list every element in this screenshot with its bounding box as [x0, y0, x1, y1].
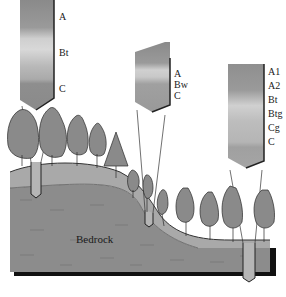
tree-icon — [89, 123, 106, 168]
tree-icon — [8, 110, 39, 167]
soil-profile-midslope — [135, 42, 170, 112]
tree-icon — [200, 192, 219, 240]
horizon-label: C — [59, 84, 66, 94]
horizon-label: C — [268, 137, 275, 147]
tree-icon — [176, 188, 194, 236]
horizon-label: Bw — [174, 80, 188, 90]
tree-icon — [222, 186, 243, 242]
bedrock-label: Bedrock — [76, 233, 113, 245]
tree-icon — [67, 115, 88, 166]
catena-illustration — [0, 0, 286, 297]
tree-icon — [39, 108, 66, 167]
soil-catena-diagram: A Bt C A Bw C A1 A2 Bt Btg Cg C Bedrock — [0, 0, 286, 297]
tree-icon — [254, 190, 275, 242]
soil-profile-downslope — [228, 64, 264, 168]
horizon-label: Cg — [268, 123, 280, 133]
horizon-label: A2 — [268, 81, 280, 91]
horizon-label: A — [59, 12, 66, 22]
horizon-label: C — [174, 91, 181, 101]
horizon-label: Bt — [59, 48, 68, 58]
horizon-label: A1 — [268, 67, 280, 77]
horizon-label: Bt — [268, 95, 277, 105]
soil-profile-upslope — [20, 0, 54, 110]
horizon-label: Btg — [268, 109, 282, 119]
horizon-label: A — [174, 69, 181, 79]
